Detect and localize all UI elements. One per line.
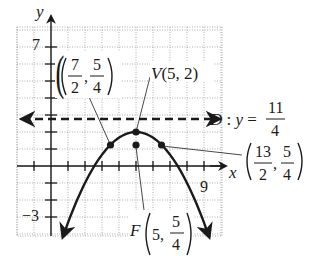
label-right-point: 13 2 , 5 4	[247, 143, 302, 183]
tick-label-7: 7	[32, 36, 40, 53]
svg-text:4: 4	[93, 79, 101, 96]
label-vertex: V(5, 2)	[150, 62, 214, 83]
svg-text:7: 7	[71, 56, 79, 73]
svg-text:F: F	[129, 221, 141, 240]
svg-text:11: 11	[268, 99, 283, 116]
svg-text:2: 2	[71, 79, 79, 96]
svg-text:D : y =: D : y =	[209, 110, 257, 129]
svg-text:2: 2	[259, 166, 267, 183]
x-axis-label: x	[228, 163, 237, 182]
vertex-point	[132, 128, 139, 135]
svg-text:5: 5	[283, 143, 291, 160]
right-point	[158, 141, 165, 148]
tick-label-neg3: −3	[22, 207, 39, 224]
label-focus: F 5, 5 4	[128, 210, 193, 260]
svg-text:5,: 5,	[152, 226, 164, 243]
svg-text:4: 4	[172, 236, 180, 253]
svg-text:4: 4	[271, 122, 279, 139]
svg-text:5: 5	[93, 56, 101, 73]
svg-text:,: ,	[273, 155, 277, 172]
tick-label-9: 9	[200, 178, 208, 195]
parabola-graph: y x 7 −3 9 ( 7 2 , 5 4 V(5, 2) D : y = 1…	[0, 0, 309, 262]
svg-text:13: 13	[255, 143, 271, 160]
svg-text:4: 4	[283, 166, 291, 183]
leader-right-point	[162, 146, 242, 155]
focus-point	[132, 141, 139, 148]
left-point	[107, 141, 114, 148]
svg-text:(: (	[56, 46, 65, 101]
svg-text:5: 5	[172, 213, 180, 230]
leader-focus	[136, 147, 144, 210]
leader-vertex	[136, 77, 150, 132]
leader-left-point	[89, 97, 110, 144]
y-axis-label: y	[34, 2, 44, 21]
svg-text:,: ,	[84, 68, 88, 85]
label-left-point: ( 7 2 , 5 4	[55, 46, 121, 101]
label-directrix: D : y = 11 4	[209, 99, 285, 139]
svg-text:V(5, 2): V(5, 2)	[151, 64, 198, 83]
